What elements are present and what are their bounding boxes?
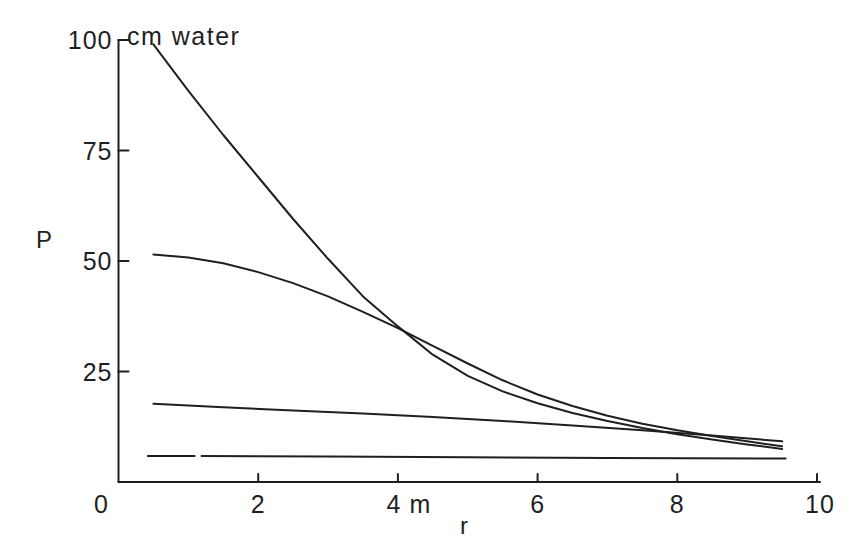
axes-group — [119, 40, 821, 482]
curves-group — [148, 44, 786, 458]
y-tick-label: 25 — [83, 358, 113, 386]
chart-canvas: 255075100024 m6810 cm water P r — [0, 0, 863, 557]
x-axis-label: r — [460, 512, 468, 539]
scanned-figure-page: 255075100024 m6810 cm water P r — [0, 0, 863, 557]
x-tick-label: 2 — [251, 490, 266, 518]
y-tick-label: 75 — [83, 137, 113, 165]
x-tick-label: 10 — [805, 490, 835, 518]
x-tick-label: 6 — [530, 490, 545, 518]
y-tick-label: 100 — [68, 26, 113, 54]
curve-4-flat — [202, 456, 786, 459]
y-tick-label: 50 — [83, 247, 113, 275]
curve-2 — [153, 254, 782, 446]
x-tick-label: 0 — [94, 490, 109, 518]
x-tick-label: 8 — [670, 490, 685, 518]
curve-1-steep — [153, 44, 782, 449]
x-tick-label: 4 m — [387, 490, 432, 518]
y-axis-label: P — [36, 226, 52, 253]
tick-labels-group: 255075100024 m6810 — [68, 26, 835, 518]
chart-title: cm water — [127, 22, 240, 50]
